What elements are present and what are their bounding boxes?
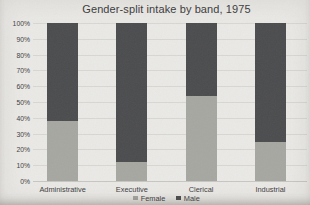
y-tick-label-70%: 70% — [0, 67, 30, 74]
bar-industrial-male — [255, 23, 286, 142]
y-tick-label-90%: 90% — [0, 35, 30, 42]
bar-administrative-female — [47, 121, 78, 181]
bar-industrial-female — [255, 142, 286, 182]
y-tick-label-30%: 30% — [0, 130, 30, 137]
legend: FemaleMale — [28, 193, 305, 203]
y-tick-label-80%: 80% — [0, 51, 30, 58]
y-tick-label-20%: 20% — [0, 146, 30, 153]
legend-label-male: Male — [184, 194, 200, 203]
y-tick-label-60%: 60% — [0, 83, 30, 90]
chart-title: Gender-split intake by band, 1975 — [28, 3, 305, 15]
y-tick-label-100%: 100% — [0, 20, 30, 27]
legend-label-female: Female — [141, 194, 166, 203]
bar-executive-female — [116, 162, 147, 181]
y-tick-label-40%: 40% — [0, 114, 30, 121]
bar-clerical-female — [186, 96, 217, 181]
legend-item-male: Male — [176, 194, 200, 203]
legend-marker-male — [176, 196, 181, 201]
bar-clerical-male — [186, 23, 217, 96]
bar-administrative-male — [47, 23, 78, 121]
y-tick-label-50%: 50% — [0, 99, 30, 106]
legend-item-female: Female — [133, 194, 165, 203]
y-tick-label-10%: 10% — [0, 162, 30, 169]
chart-screenshot: Gender-split intake by band, 1975 0%10%2… — [0, 0, 310, 205]
y-tick-label-0%: 0% — [0, 178, 30, 185]
bar-executive-male — [116, 23, 147, 162]
legend-marker-female — [133, 196, 138, 201]
gridline-0% — [33, 181, 307, 182]
